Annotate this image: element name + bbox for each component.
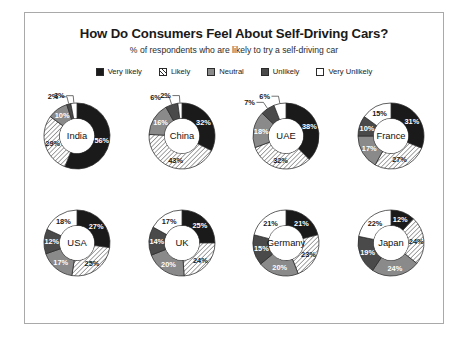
slice-value-label: 3%	[54, 91, 65, 100]
country-name-label: Japan	[378, 237, 404, 248]
slice-value-label: 17%	[54, 258, 69, 267]
slice-value-label: 27%	[392, 155, 407, 164]
country-name-label: China	[170, 130, 195, 141]
slice-value-label: 7%	[244, 98, 255, 107]
slice-value-label: 17%	[362, 144, 377, 153]
country-name-label: Germany	[267, 237, 306, 248]
slice-value-label: 16%	[153, 118, 168, 127]
slice-value-label: 25%	[192, 221, 207, 230]
donut-chart-usa[interactable]: 27%25%17%12%18%USA	[25, 189, 130, 296]
legend-item[interactable]: Neutral	[207, 67, 243, 76]
donut-chart-germany[interactable]: 21%23%20%15%21%Germany	[234, 189, 339, 296]
legend-item-label: Unlikely	[273, 67, 300, 76]
slice-value-label: 21%	[294, 219, 309, 228]
slice-value-label: 20%	[161, 260, 176, 269]
slice-value-label: 29%	[46, 139, 61, 148]
legend-item[interactable]: Very likely	[96, 67, 142, 76]
legend-swatch-solid	[316, 68, 324, 76]
slice-value-label: 23%	[301, 250, 316, 259]
country-name-label: UK	[175, 237, 189, 248]
legend-item[interactable]: Likely	[159, 67, 190, 76]
country-name-label: UAE	[277, 130, 296, 141]
slice-value-label: 56%	[95, 136, 110, 145]
donut-chart-uae[interactable]: 38%32%18%7%6%UAE	[234, 82, 339, 189]
slice-value-label: 19%	[360, 248, 375, 257]
legend-item-label: Likely	[171, 67, 190, 76]
country-name-label: USA	[68, 237, 88, 248]
legend-item-label: Very likely	[108, 67, 142, 76]
slice-value-label: 18%	[254, 127, 269, 136]
slice-value-label: 32%	[273, 156, 288, 165]
slice-value-label: 18%	[56, 217, 71, 226]
chart-panel: How Do Consumers Feel About Self-Driving…	[24, 12, 444, 324]
legend-item-label: Neutral	[219, 67, 243, 76]
chart-legend: Very likelyLikelyNeutralUnlikelyVery Unl…	[25, 67, 443, 76]
slice-value-label: 10%	[359, 124, 374, 133]
slice-value-label: 24%	[193, 256, 208, 265]
slice-value-label: 38%	[302, 122, 317, 131]
page-subtitle: % of respondents who are likely to try a…	[25, 45, 443, 55]
label-leader-line	[257, 102, 268, 108]
donut-chart-grid: 56%29%10%2%3%India32%43%16%6%2%China38%3…	[25, 82, 443, 296]
label-leader-line	[272, 96, 280, 103]
slice-value-label: 32%	[196, 118, 211, 127]
legend-swatch-solid	[96, 68, 104, 76]
donut-chart-uk[interactable]: 25%24%20%14%17%UK	[130, 189, 235, 296]
slice-value-label: 6%	[260, 92, 271, 101]
slice-value-label: 43%	[168, 156, 183, 165]
donut-chart-china[interactable]: 32%43%16%6%2%China	[130, 82, 235, 189]
slice-value-label: 21%	[263, 219, 278, 228]
legend-item-label: Very Unlikely	[328, 67, 372, 76]
country-name-label: India	[67, 130, 88, 141]
legend-swatch-hatch	[159, 68, 167, 76]
slice-value-label: 17%	[161, 217, 176, 226]
slice-value-label: 22%	[367, 219, 382, 228]
label-leader-line	[172, 96, 179, 103]
legend-swatch-solid	[261, 68, 269, 76]
slice-value-label: 31%	[404, 117, 419, 126]
slice-value-label: 20%	[273, 263, 288, 272]
country-name-label: France	[376, 130, 405, 141]
slice-value-label: 15%	[372, 109, 387, 118]
slice-value-label: 2%	[160, 91, 171, 100]
slice-value-label: 12%	[45, 237, 60, 246]
slice-value-label: 25%	[85, 259, 100, 268]
page-title: How Do Consumers Feel About Self-Driving…	[25, 26, 443, 41]
slice-value-label: 27%	[89, 222, 104, 231]
slice-value-label: 14%	[149, 237, 164, 246]
slice-value-label: 10%	[55, 111, 70, 120]
slice-value-label: 12%	[393, 215, 408, 224]
slice-value-label: 24%	[409, 237, 424, 246]
donut-chart-japan[interactable]: 12%24%24%19%22%Japan	[339, 189, 444, 296]
legend-item[interactable]: Very Unlikely	[316, 67, 372, 76]
donut-chart-india[interactable]: 56%29%10%2%3%India	[25, 82, 130, 189]
legend-item[interactable]: Unlikely	[261, 67, 300, 76]
donut-chart-france[interactable]: 31%27%17%10%15%France	[339, 82, 444, 189]
legend-swatch-solid	[207, 68, 215, 76]
slice-value-label: 24%	[387, 264, 402, 273]
